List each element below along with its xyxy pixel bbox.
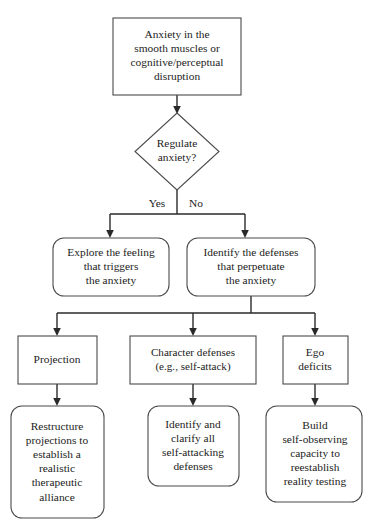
arrowhead-icon <box>53 398 61 406</box>
node-explore-feeling: Explore the feelingthat triggersthe anxi… <box>53 238 169 296</box>
edge-decision-split <box>106 190 249 238</box>
node-ego-deficits: Egodeficits <box>283 336 348 384</box>
edge-ego-to-build <box>311 384 319 406</box>
edge-start-to-decision <box>173 95 181 114</box>
arrowhead-icon <box>53 328 61 336</box>
edge-label-no: No <box>189 197 203 209</box>
arrowhead-icon <box>241 230 249 238</box>
edge-label-yes: Yes <box>149 197 166 209</box>
nodes-layer: Anxiety in thesmooth muscles orcognitive… <box>11 18 362 518</box>
arrowhead-icon <box>311 328 319 336</box>
flowchart-diagram: Yes No <box>0 0 382 528</box>
node-identify-defenses: Identify the defensesthat perpetuatethe … <box>187 238 315 296</box>
node-character-defenses: Character defenses(e.g., self-attack) <box>130 336 256 384</box>
node-decision-regulate-anxiety: Regulateanxiety? <box>135 113 219 190</box>
node-identify-clarify: Identify andclarify allself-attackingdef… <box>148 406 239 486</box>
arrowhead-icon <box>311 398 319 406</box>
arrowhead-icon <box>106 230 114 238</box>
node-character-defenses-label: Character defenses(e.g., self-attack) <box>151 345 235 372</box>
node-projection: Projection <box>18 336 97 384</box>
edge-defenses-split <box>53 296 319 336</box>
node-build-capacity: Buildself-observingcapacity toreestablis… <box>266 406 362 502</box>
edge-projection-to-restructure <box>53 384 61 406</box>
edge-character-to-clarify <box>189 384 197 406</box>
arrowhead-icon <box>189 398 197 406</box>
node-projection-label: Projection <box>34 353 81 365</box>
arrowhead-icon <box>189 328 197 336</box>
node-start: Anxiety in thesmooth muscles orcognitive… <box>113 18 241 95</box>
node-restructure-projections: Restructureprojections toestablish areal… <box>11 406 104 518</box>
